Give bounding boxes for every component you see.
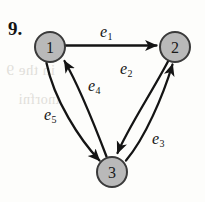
item-number: 9. xyxy=(8,18,22,40)
edge-label-e5-text: e xyxy=(44,106,51,123)
edge-label-e2-text: e xyxy=(120,60,127,77)
edge-label-e1: e1 xyxy=(100,24,112,40)
node-1-label: 1 xyxy=(46,39,54,56)
node-2-label: 2 xyxy=(171,39,179,56)
edge-label-e2-sub: 2 xyxy=(128,68,133,79)
edge-label-e1-text: e xyxy=(100,23,107,40)
node-3-label: 3 xyxy=(108,164,116,181)
edge-label-e3-text: e xyxy=(152,130,159,147)
edge-label-e5-sub: 5 xyxy=(52,114,57,125)
edge-label-e5: e5 xyxy=(44,107,56,123)
edge-label-e1-sub: 1 xyxy=(108,31,113,42)
edge-label-e4-text: e xyxy=(88,77,95,94)
graph-nodes: 1 2 3 xyxy=(35,32,190,187)
edge-label-e4-sub: 4 xyxy=(96,85,101,96)
edge-label-e4: e4 xyxy=(88,78,100,94)
edge-label-e3-sub: 3 xyxy=(160,138,165,149)
figure-canvas: in the 9 tnorfni 9. 1 xyxy=(0,0,205,202)
edge-label-e2: e2 xyxy=(120,61,132,77)
edge-label-e3: e3 xyxy=(152,131,164,147)
